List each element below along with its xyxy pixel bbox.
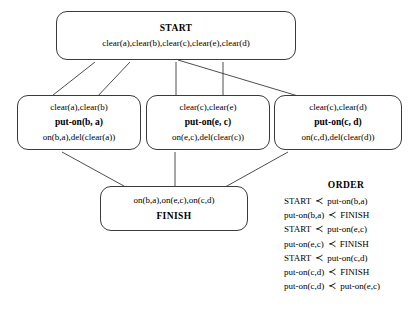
- precedes-operator-icon: ≺: [324, 208, 340, 222]
- order-constraint-row: START≺put-on(b,a): [284, 194, 408, 208]
- put-on-b-a-effects: on(b,a),del(clear(a)): [43, 132, 115, 144]
- node-put-on-b-a: clear(a),clear(b) put-on(b, a) on(b,a),d…: [17, 95, 141, 150]
- order-constraint-right: FINISH: [340, 209, 369, 222]
- order-title: ORDER: [284, 180, 408, 190]
- order-constraint-left: put-on(b,a): [284, 209, 324, 222]
- order-constraint-right: FINISH: [340, 266, 369, 279]
- order-constraint-left: START: [284, 195, 311, 208]
- finish-title: FINISH: [156, 210, 191, 222]
- put-on-c-d-effects: on(c,d),del(clear(d)): [302, 132, 375, 144]
- put-on-e-c-effects: on(e,c),del(clear(c)): [172, 132, 244, 144]
- order-constraint-left: put-on(e,c): [284, 238, 324, 251]
- order-constraint-row: put-on(b,a)≺FINISH: [284, 208, 408, 222]
- put-on-b-a-preconditions: clear(a),clear(b): [50, 102, 108, 114]
- finish-goals: on(b,a),on(e,c),on(c,d): [133, 195, 214, 207]
- edge-start-to-put-on-b-a-1: [48, 62, 95, 99]
- node-start: START clear(a),clear(b),clear(c),clear(e…: [56, 11, 296, 60]
- put-on-c-d-preconditions: clear(c),clear(d): [309, 102, 367, 114]
- order-constraint-left: START: [284, 252, 311, 265]
- node-put-on-e-c: clear(c),clear(e) put-on(e, c) on(e,c),d…: [146, 95, 270, 150]
- put-on-e-c-preconditions: clear(c),clear(e): [179, 102, 236, 114]
- order-constraint-row: START≺put-on(c,d): [284, 251, 408, 265]
- precedes-operator-icon: ≺: [311, 222, 327, 236]
- precedes-operator-icon: ≺: [324, 265, 340, 279]
- order-constraint-row: START≺put-on(e,c): [284, 222, 408, 236]
- order-panel: ORDER START≺put-on(b,a)put-on(b,a)≺FINIS…: [284, 180, 408, 293]
- order-constraint-left: START: [284, 223, 311, 236]
- order-constraint-row: put-on(e,c)≺FINISH: [284, 237, 408, 251]
- precedes-operator-icon: ≺: [311, 251, 327, 265]
- diagram-canvas: START clear(a),clear(b),clear(c),clear(e…: [0, 0, 409, 310]
- put-on-e-c-action: put-on(e, c): [185, 116, 231, 128]
- precedes-operator-icon: ≺: [311, 194, 327, 208]
- order-constraint-left: put-on(c,d): [284, 266, 324, 279]
- put-on-c-d-action: put-on(c, d): [314, 116, 362, 128]
- order-constraint-list: START≺put-on(b,a)put-on(b,a)≺FINISHSTART…: [284, 194, 408, 293]
- precedes-operator-icon: ≺: [324, 279, 340, 293]
- order-constraint-left: put-on(c,d): [284, 280, 324, 293]
- precedes-operator-icon: ≺: [324, 237, 340, 251]
- node-finish: on(b,a),on(e,c),on(c,d) FINISH: [100, 186, 248, 231]
- order-constraint-row: put-on(c,d)≺put-on(e,c): [284, 279, 408, 293]
- edge-start-to-put-on-b-a-2: [95, 62, 130, 99]
- order-constraint-row: put-on(c,d)≺FINISH: [284, 265, 408, 279]
- start-effects: clear(a),clear(b),clear(c),clear(e),clea…: [102, 38, 249, 50]
- put-on-b-a-action: put-on(b, a): [55, 116, 103, 128]
- node-put-on-c-d: clear(c),clear(d) put-on(c, d) on(c,d),d…: [274, 95, 402, 150]
- start-title: START: [160, 22, 193, 34]
- order-constraint-right: put-on(c,d): [327, 252, 367, 265]
- order-constraint-right: put-on(b,a): [327, 195, 367, 208]
- edge-start-to-put-on-c-d: [178, 60, 308, 99]
- order-constraint-right: FINISH: [340, 238, 369, 251]
- order-constraint-right: put-on(e,c): [327, 223, 367, 236]
- order-constraint-right: put-on(e,c): [340, 280, 380, 293]
